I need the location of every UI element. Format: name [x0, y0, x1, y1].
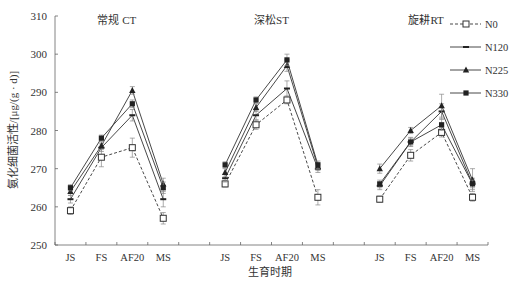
- series-line: [225, 89, 318, 179]
- data-point-marker: [99, 136, 104, 141]
- y-tick-label: 250: [31, 239, 48, 251]
- x-category-label: MS: [156, 252, 171, 263]
- series-n0: [377, 128, 476, 202]
- y-axis-title: 氨化细菌活性/[μg/(g · d)]: [6, 71, 20, 189]
- data-point-marker: [68, 185, 73, 190]
- data-point-marker: [160, 198, 166, 200]
- data-point-marker: [438, 102, 444, 108]
- data-point-marker: [284, 88, 290, 90]
- axes: 250260270280290300310: [31, 10, 489, 251]
- data-point-marker: [377, 196, 383, 202]
- series-n0: [222, 96, 321, 205]
- x-category-label: JS: [375, 252, 385, 263]
- panel-title: 旋耕RT: [408, 13, 444, 26]
- data-point-marker: [130, 101, 135, 106]
- panel-title: 深松ST: [254, 13, 289, 26]
- data-point-marker: [67, 198, 73, 200]
- x-category-label: FS: [250, 252, 262, 263]
- series-line: [70, 148, 163, 219]
- chart-svg: 250260270280290300310 常规 CTJSFSAF20MS深松S…: [0, 0, 518, 287]
- data-point-marker: [315, 162, 320, 167]
- series-n225: [377, 94, 476, 191]
- data-point-marker: [98, 154, 104, 160]
- x-category-label: AF20: [120, 252, 144, 263]
- x-category-label: JS: [220, 252, 230, 263]
- panel-title: 常规 CT: [97, 13, 136, 26]
- legend-label: N120: [485, 42, 508, 53]
- legend-marker: [463, 46, 469, 48]
- series-line: [380, 111, 473, 185]
- panel-1: 常规 CTJSFSAF20MS: [65, 13, 170, 263]
- series-line: [225, 100, 318, 197]
- data-point-marker: [129, 145, 135, 151]
- x-category-label: FS: [96, 252, 108, 263]
- series-n225: [222, 60, 321, 176]
- panel-2: 深松STJSFSAF20MS: [220, 13, 325, 263]
- data-point-marker: [223, 162, 228, 167]
- y-tick-label: 300: [31, 48, 48, 60]
- legend-item-n330: N330: [450, 88, 508, 99]
- panel-3: 旋耕RTJSFSAF20MS: [375, 13, 480, 263]
- x-category-label: MS: [465, 252, 480, 263]
- y-tick-label: 260: [31, 201, 48, 213]
- chart-panels: 常规 CTJSFSAF20MS深松STJSFSAF20MS旋耕RTJSFSAF2…: [65, 13, 480, 263]
- x-category-label: AF20: [430, 252, 454, 263]
- data-point-marker: [161, 185, 166, 190]
- series-n330: [223, 54, 321, 169]
- x-category-label: JS: [65, 252, 75, 263]
- legend-item-n0: N0: [450, 19, 498, 30]
- legend-label: N330: [485, 88, 508, 99]
- y-tick-label: 290: [31, 86, 48, 98]
- x-category-label: AF20: [275, 252, 299, 263]
- series-line: [380, 125, 473, 184]
- legend: N0N120N225N330: [450, 19, 508, 99]
- data-point-marker: [222, 169, 228, 175]
- data-point-marker: [315, 194, 321, 200]
- legend-item-n120: N120: [450, 42, 508, 53]
- x-category-label: MS: [310, 252, 325, 263]
- legend-marker: [463, 90, 468, 95]
- data-point-marker: [253, 122, 259, 128]
- data-point-marker: [470, 194, 476, 200]
- data-point-marker: [284, 97, 290, 103]
- data-point-marker: [439, 122, 444, 127]
- data-point-marker: [408, 139, 413, 144]
- data-point-marker: [129, 87, 135, 93]
- data-point-marker: [160, 215, 166, 221]
- y-tick-label: 310: [31, 10, 48, 22]
- y-tick-label: 280: [31, 125, 48, 137]
- data-point-marker: [408, 152, 414, 158]
- data-point-marker: [407, 127, 413, 133]
- legend-item-n225: N225: [450, 65, 508, 76]
- legend-label: N0: [485, 19, 498, 30]
- chart-container: 250260270280290300310 常规 CTJSFSAF20MS深松S…: [0, 0, 518, 287]
- legend-label: N225: [485, 65, 508, 76]
- y-tick-label: 270: [31, 163, 48, 175]
- data-point-marker: [222, 177, 228, 179]
- legend-marker: [463, 21, 469, 27]
- series-n0: [67, 138, 166, 224]
- data-point-marker: [67, 208, 73, 214]
- legend-marker: [463, 67, 469, 73]
- data-point-marker: [253, 114, 259, 116]
- data-point-marker: [284, 57, 289, 62]
- data-point-marker: [253, 97, 258, 102]
- data-point-marker: [470, 181, 475, 186]
- x-axis-title: 生育时期: [248, 265, 292, 278]
- x-category-label: FS: [405, 252, 417, 263]
- series-n120: [222, 81, 321, 182]
- data-point-marker: [129, 114, 135, 116]
- series-n120: [377, 104, 476, 190]
- data-point-marker: [377, 181, 382, 186]
